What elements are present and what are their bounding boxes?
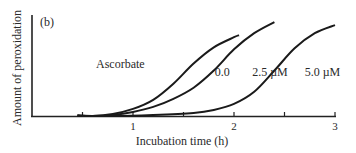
series-labels: 0.02.5 µM5.0 µM — [215, 65, 341, 79]
series-label-0: 0.0 — [215, 65, 230, 79]
x-tick-label: 3 — [332, 120, 338, 132]
y-axis-label: Amount of peroxidation — [10, 10, 24, 126]
legend-title: Ascorbate — [96, 57, 145, 71]
series-label-2: 5.0 µM — [305, 65, 341, 79]
x-tick-label: 1 — [130, 120, 136, 132]
peroxidation-chart: 123 (b) Amount of peroxidation Incubatio… — [0, 0, 356, 153]
x-tick-label: 2 — [231, 120, 237, 132]
x-tick-labels: 123 — [130, 120, 338, 132]
series-label-1: 2.5 µM — [252, 65, 288, 79]
panel-label: (b) — [40, 15, 54, 29]
x-axis-label: Incubation time (h) — [136, 134, 229, 148]
